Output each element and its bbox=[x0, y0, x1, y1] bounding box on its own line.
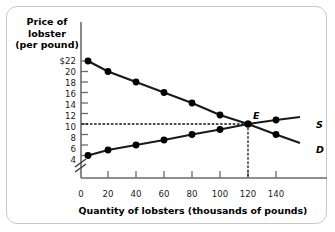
data-point bbox=[161, 89, 168, 96]
data-point bbox=[217, 126, 224, 133]
supply-curve-extension bbox=[276, 117, 300, 120]
chart-plot-area bbox=[0, 0, 335, 232]
data-point bbox=[189, 131, 196, 138]
data-point bbox=[133, 79, 140, 86]
x-axis-ticks bbox=[108, 171, 276, 178]
data-point bbox=[217, 112, 224, 119]
data-point bbox=[161, 137, 168, 144]
data-point bbox=[85, 152, 92, 159]
demand-curve-extension bbox=[276, 135, 300, 144]
data-point bbox=[273, 117, 280, 124]
data-point bbox=[133, 142, 140, 149]
equilibrium-point bbox=[244, 120, 251, 127]
data-point bbox=[85, 58, 92, 65]
data-point bbox=[105, 147, 112, 154]
data-point bbox=[189, 100, 196, 107]
y-axis-ticks bbox=[81, 61, 88, 156]
data-point bbox=[105, 68, 112, 75]
data-point bbox=[273, 131, 280, 138]
figure-container: Price of lobster (per pound) Quantity of… bbox=[0, 0, 335, 232]
